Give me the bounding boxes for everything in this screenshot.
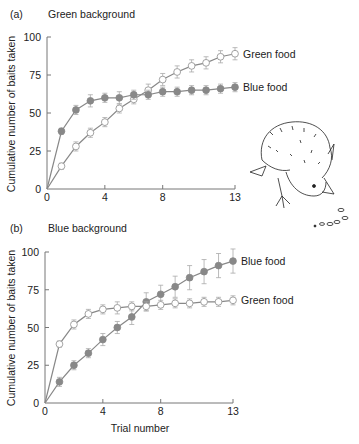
panel-a-blue-food-point: [232, 84, 239, 91]
panel-b-green-food-point: [230, 297, 237, 304]
bait-5: [320, 223, 325, 226]
chick-eye: [313, 185, 316, 188]
panel-a-title: Green background: [48, 8, 135, 20]
panel-b-x-tick-label: 0: [42, 405, 48, 417]
chick-back-outline: [261, 122, 331, 178]
panel-b-y-tick-label: 0: [33, 397, 39, 409]
panel-b-green-food-point: [186, 300, 193, 307]
figure: (a) Green background Cumulative number o…: [0, 0, 359, 444]
panel-a-legend-green-food: Green food: [243, 48, 296, 60]
panel-a-green-food-point: [232, 50, 239, 57]
panel-a-blue-food-point: [116, 94, 123, 101]
panel-a-ylabel: Cumulative number of baits taken: [5, 36, 17, 193]
panel-a-blue-food-point: [159, 88, 166, 95]
panel-a-blue-food-point: [188, 87, 195, 94]
panel-a-x-tick-label: 8: [160, 191, 166, 203]
panel-b-blue-food-point: [85, 350, 92, 357]
panel-b-marks: [45, 249, 236, 403]
bait-2: [342, 216, 348, 219]
panel-a-green-food-point: [87, 129, 94, 136]
panel-a-marks: [47, 48, 238, 189]
panel-a-y-tick-label: 100: [23, 31, 41, 43]
panel-b-blue-food-point: [56, 378, 63, 385]
panel-b: (b) Blue background Cumulative number of…: [5, 222, 294, 434]
panel-a-blue-food-point: [58, 128, 65, 135]
panel-b-green-food-point: [215, 298, 222, 305]
panel-b-y-tick-label: 100: [21, 246, 39, 258]
panel-b-green-food-point: [114, 304, 121, 311]
panel-b-green-food-point: [85, 311, 92, 318]
panel-b-green-food-point: [56, 341, 63, 348]
panel-b-blue-food-point: [99, 336, 106, 343]
panel-b-green-food-point: [143, 303, 150, 310]
panel-b-y-tick-label: 25: [27, 359, 39, 371]
bait-3: [334, 220, 340, 223]
panel-b-x-tick-label: 4: [100, 405, 106, 417]
panel-a-green-food-point: [203, 59, 210, 66]
panel-a-blue-food-point: [130, 91, 137, 98]
panel-a-x-tick-label: 13: [229, 191, 241, 203]
chick-leg: [276, 178, 290, 208]
panel-a-green-food-point: [58, 163, 65, 170]
panel-a-y-tick-label: 75: [29, 69, 41, 81]
panel-a-green-food-point: [101, 119, 108, 126]
chick-beak: [322, 178, 334, 194]
bait-4: [327, 222, 333, 225]
panel-b-green-food-point: [128, 303, 135, 310]
panel-b-blue-food-point: [114, 324, 121, 331]
panel-b-blue-food-point: [128, 314, 135, 321]
panel-a-x-tick-label: 0: [44, 191, 50, 203]
chick-wing-tip: [250, 166, 266, 176]
panel-b-blue-food-point: [71, 362, 78, 369]
panel-a-blue-food-point: [217, 85, 224, 92]
panel-b-green-food-point: [99, 306, 106, 313]
panel-a-green-food-point: [188, 62, 195, 69]
bait-6: [314, 225, 316, 227]
panel-b-blue-food-point: [201, 268, 208, 275]
panel-b-blue-food-point: [186, 274, 193, 281]
panel-b-blue-food-point: [230, 258, 237, 265]
panel-b-xlabel: Trial number: [111, 422, 170, 434]
panel-b-y-tick-label: 50: [27, 322, 39, 334]
panel-a-x-tick-label: 4: [102, 191, 108, 203]
panel-b-legend-blue-food: Blue food: [241, 255, 286, 267]
panel-b-y-tick-label: 75: [27, 284, 39, 296]
panel-a-y-tick-label: 0: [35, 183, 41, 195]
panel-a-y-tick-label: 50: [29, 107, 41, 119]
panel-b-label: (b): [10, 222, 23, 234]
panel-b-legend-green-food: Green food: [241, 294, 294, 306]
panel-b-blue-food-line: [45, 261, 233, 403]
panel-b-legend: Blue foodGreen food: [241, 255, 294, 306]
bait-1: [338, 208, 344, 211]
panel-b-green-food-point: [172, 300, 179, 307]
panel-b-green-food-line: [45, 300, 233, 403]
panel-a-y-tick-label: 25: [29, 145, 41, 157]
panel-b-green-food-point: [71, 321, 78, 328]
panel-b-blue-food-point: [157, 291, 164, 298]
panel-a-blue-food-point: [73, 107, 80, 114]
chick-illustration: [250, 122, 348, 227]
panel-a-blue-food-point: [87, 97, 94, 104]
panel-a-legend-blue-food: Blue food: [243, 81, 288, 93]
panel-a-blue-food-line: [47, 87, 235, 189]
panel-b-x-tick-label: 13: [227, 405, 239, 417]
panel-b-title: Blue background: [48, 222, 127, 234]
panel-a-green-food-point: [73, 143, 80, 150]
panel-a-green-food-line: [47, 54, 235, 189]
panel-b-green-food-point: [157, 301, 164, 308]
panel-a-blue-food-point: [101, 94, 108, 101]
panel-b-blue-food-point: [215, 262, 222, 269]
panel-a-legend: Green foodBlue food: [243, 48, 296, 93]
panel-a-green-food-point: [116, 105, 123, 112]
panel-a-green-food-point: [159, 76, 166, 83]
panel-b-green-food-point: [201, 298, 208, 305]
panel-a-blue-food-point: [203, 87, 210, 94]
panel-a-green-food-point: [174, 69, 181, 76]
panel-a-blue-food-point: [145, 91, 152, 98]
panel-a: (a) Green background Cumulative number o…: [5, 8, 296, 203]
panel-b-x-tick-label: 8: [158, 405, 164, 417]
panel-a-green-food-point: [217, 53, 224, 60]
chick-head: [286, 172, 326, 196]
panel-b-ylabel: Cumulative number of baits taken: [5, 250, 17, 407]
chick-wing: [262, 160, 290, 171]
